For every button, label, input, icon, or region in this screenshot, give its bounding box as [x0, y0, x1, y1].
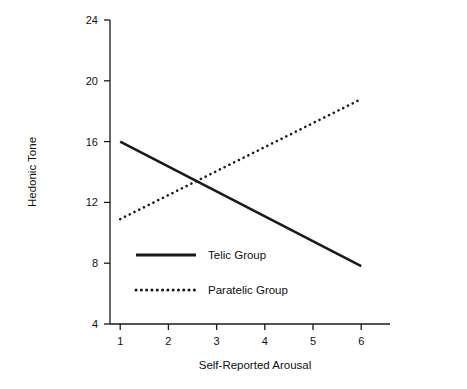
y-tick-label: 8: [92, 257, 98, 269]
legend-label-telic: Telic Group: [208, 249, 266, 261]
x-tick-label: 3: [214, 335, 220, 347]
y-axis-ticks: [104, 20, 110, 324]
x-axis-ticks: [120, 324, 361, 330]
legend-label-paratelic: Paratelic Group: [208, 284, 288, 296]
y-tick-label: 4: [92, 318, 98, 330]
x-tick-label: 1: [117, 335, 123, 347]
y-tick-label: 16: [86, 136, 98, 148]
chart-legend: Telic Group Paratelic Group: [136, 249, 288, 296]
x-tick-label: 4: [262, 335, 268, 347]
y-tick-labels: 4 8 12 16 20 24: [86, 14, 98, 330]
x-axis-title: Self-Reported Arousal: [199, 359, 312, 371]
line-chart-svg: 4 8 12 16 20 24 1 2 3 4 5 6 Self-Reporte…: [0, 0, 467, 389]
series-line-telic: [120, 142, 361, 267]
y-tick-label: 20: [86, 75, 98, 87]
x-tick-label: 6: [358, 335, 364, 347]
x-tick-labels: 1 2 3 4 5 6: [117, 335, 364, 347]
x-tick-label: 5: [310, 335, 316, 347]
y-tick-label: 12: [86, 196, 98, 208]
y-tick-label: 24: [86, 14, 98, 26]
chart-container: 4 8 12 16 20 24 1 2 3 4 5 6 Self-Reporte…: [0, 0, 467, 389]
x-tick-label: 2: [165, 335, 171, 347]
y-axis-title: Hedonic Tone: [26, 137, 38, 207]
